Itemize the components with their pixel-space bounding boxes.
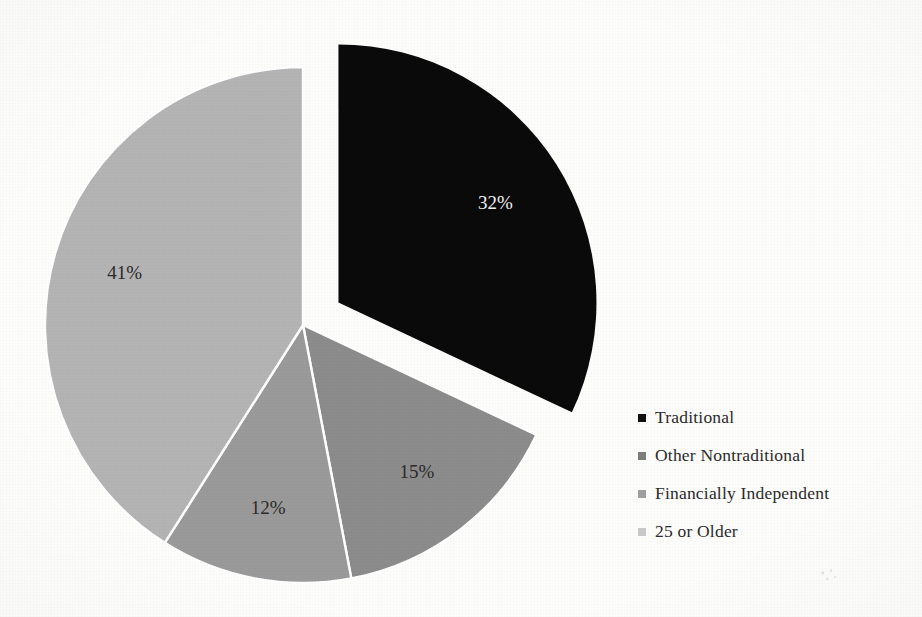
scan-artifact (815, 565, 841, 585)
pie-slice-value-label: 15% (399, 461, 434, 482)
legend-swatch-icon (638, 452, 646, 460)
legend-item-label: 25 or Older (655, 521, 738, 542)
chart-legend: Traditional Other Nontraditional Financi… (638, 398, 908, 550)
pie-slice-group (45, 44, 596, 583)
legend-swatch-icon (638, 414, 646, 422)
pie-slice-value-label: 41% (107, 262, 142, 283)
pie-slice-value-label: 12% (251, 497, 286, 518)
legend-item-traditional[interactable]: Traditional (638, 398, 908, 436)
legend-swatch-icon (638, 528, 646, 536)
legend-item-label: Other Nontraditional (655, 445, 805, 466)
legend-item-25-or-older[interactable]: 25 or Older (638, 512, 908, 550)
legend-swatch-icon (638, 490, 646, 498)
legend-item-financially-independent[interactable]: Financially Independent (638, 474, 908, 512)
pie-chart-figure: 32%15%12%41% Traditional Other Nontradit… (0, 0, 922, 617)
pie-slice[interactable] (338, 44, 596, 412)
legend-item-other-nontraditional[interactable]: Other Nontraditional (638, 436, 908, 474)
pie-slice-value-label: 32% (478, 192, 513, 213)
legend-item-label: Traditional (655, 407, 734, 428)
legend-item-label: Financially Independent (655, 483, 829, 504)
